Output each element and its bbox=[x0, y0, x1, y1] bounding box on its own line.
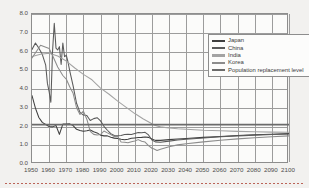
legend-swatch-icon bbox=[212, 69, 225, 71]
chart-legend: JapanChinaIndiaKoreaPopulation replaceme… bbox=[208, 34, 309, 77]
legend-swatch-icon bbox=[212, 40, 225, 42]
y-axis-tick-label: 1.0 bbox=[2, 141, 28, 147]
legend-item-label: India bbox=[228, 52, 241, 59]
chart-root: 0.01.02.03.04.05.06.07.08.0 JapanChinaIn… bbox=[0, 0, 309, 188]
bottom-dotted-rule bbox=[4, 182, 305, 184]
plot-area: JapanChinaIndiaKoreaPopulation replaceme… bbox=[31, 13, 288, 163]
y-axis-tick-label: 5.0 bbox=[2, 66, 28, 72]
legend-item-label: Japan bbox=[228, 37, 244, 44]
series-line-japan bbox=[32, 96, 289, 141]
y-axis-labels: 0.01.02.03.04.05.06.07.08.0 bbox=[0, 13, 28, 163]
legend-swatch-icon bbox=[212, 62, 225, 64]
y-axis-tick-label: 7.0 bbox=[2, 29, 28, 35]
legend-item[interactable]: Population replacement level bbox=[212, 67, 309, 74]
legend-item[interactable]: Japan bbox=[212, 37, 309, 44]
legend-item[interactable]: Korea bbox=[212, 59, 309, 66]
legend-item-label: China bbox=[228, 45, 243, 52]
x-axis-tick-label: 2100 bbox=[275, 166, 301, 173]
legend-item[interactable]: India bbox=[212, 52, 309, 59]
x-axis-labels: 1950196019701980199020002010202020302040… bbox=[31, 166, 288, 176]
legend-swatch-icon bbox=[212, 47, 225, 49]
y-axis-tick-label: 6.0 bbox=[2, 48, 28, 54]
legend-swatch-icon bbox=[212, 54, 225, 56]
legend-item-label: Korea bbox=[228, 59, 244, 66]
y-axis-tick-label: 4.0 bbox=[2, 85, 28, 91]
y-axis-tick-label: 8.0 bbox=[2, 10, 28, 16]
y-axis-tick-label: 2.0 bbox=[2, 123, 28, 129]
legend-item-label: Population replacement level bbox=[228, 67, 304, 74]
y-axis-tick-label: 3.0 bbox=[2, 104, 28, 110]
legend-item[interactable]: China bbox=[212, 44, 309, 51]
